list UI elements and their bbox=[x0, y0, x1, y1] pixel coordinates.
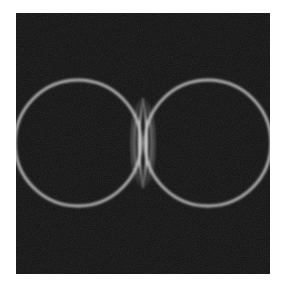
interference-image-panel bbox=[16, 13, 270, 274]
interference-pattern bbox=[16, 13, 270, 274]
interference-fringes bbox=[132, 93, 155, 193]
